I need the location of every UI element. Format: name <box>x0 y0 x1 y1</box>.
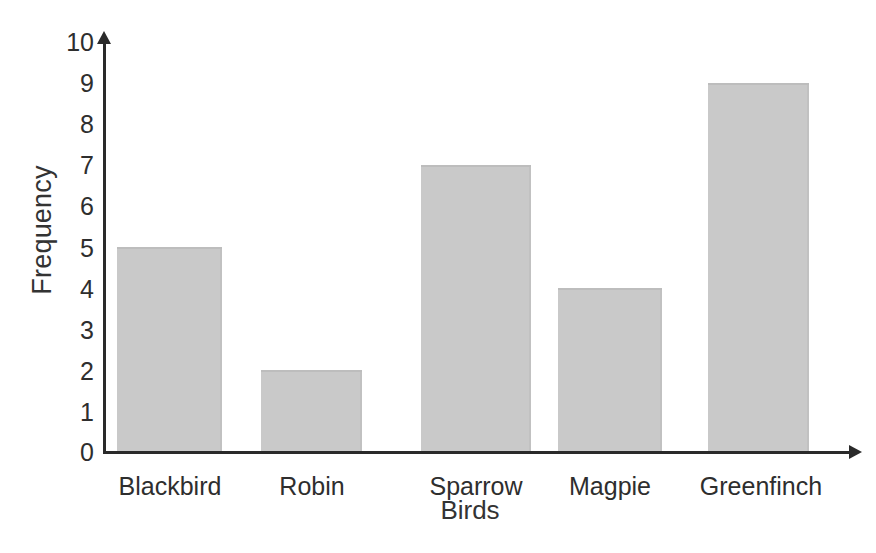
bar-series <box>0 0 876 553</box>
bar-chart-figure: Frequency 10 9 8 7 6 5 4 3 2 1 0 Blackbi… <box>0 0 876 553</box>
bar-greenfinch <box>708 83 809 452</box>
bar-robin <box>261 370 362 452</box>
bar-blackbird <box>117 247 222 452</box>
x-axis-title: Birds <box>440 495 499 526</box>
y-axis-arrow-icon <box>97 31 111 44</box>
x-tick-label-blackbird: Blackbird <box>119 472 222 501</box>
x-tick-label-greenfinch: Greenfinch <box>700 472 822 501</box>
x-axis-arrow-icon <box>849 445 862 459</box>
x-axis-line <box>103 451 850 454</box>
bar-sparrow <box>421 165 531 452</box>
y-axis-line <box>103 40 106 453</box>
x-tick-label-magpie: Magpie <box>569 472 651 501</box>
x-tick-label-robin: Robin <box>279 472 344 501</box>
bar-magpie <box>558 288 662 452</box>
